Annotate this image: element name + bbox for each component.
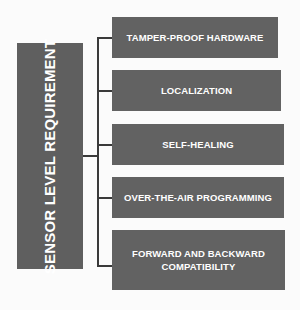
root-connector-line [83,155,97,157]
requirement-label: LOCALIZATION [161,84,232,97]
bracket-vertical-line [97,39,99,266]
root-node-label: SENSOR LEVEL REQUIREMENT [42,38,59,273]
branch-line-2 [97,90,113,92]
branch-line-4 [97,197,113,199]
requirement-forward-backward-compatibility: FORWARD AND BACKWARD COMPATIBILITY [112,230,285,290]
requirement-label: OVER-THE-AIR PROGRAMMING [124,191,272,204]
requirement-self-healing: SELF-HEALING [112,124,284,165]
requirement-over-the-air-programming: OVER-THE-AIR PROGRAMMING [112,177,284,218]
root-node-sensor-level-requirement: SENSOR LEVEL REQUIREMENT [17,43,83,269]
requirement-label: TAMPER-PROOF HARDWARE [126,31,263,44]
requirement-tamper-proof-hardware: TAMPER-PROOF HARDWARE [112,17,278,58]
branch-line-5 [97,265,113,267]
branch-line-1 [97,37,113,39]
requirement-label: FORWARD AND BACKWARD COMPATIBILITY [129,247,269,273]
requirement-localization: LOCALIZATION [112,70,281,111]
requirement-label: SELF-HEALING [162,138,233,151]
branch-line-3 [97,144,113,146]
